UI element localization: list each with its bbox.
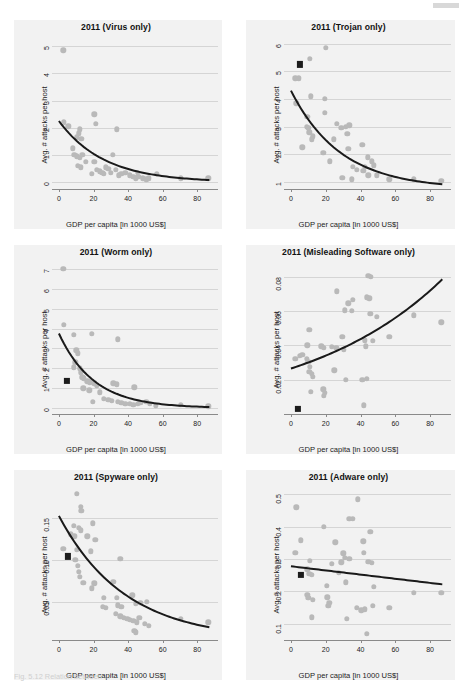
- x-axis-tick-label: 60: [385, 195, 405, 202]
- x-axis-tick: [59, 640, 60, 643]
- plot-area: 0.020.040.060.08020406080: [284, 263, 451, 414]
- x-axis-tick-label: 40: [351, 195, 371, 202]
- y-axis-label: Avg. # attacks per host: [272, 536, 281, 613]
- x-axis-tick: [163, 189, 164, 192]
- y-axis-label: Avg. # attacks per host: [40, 86, 49, 163]
- y-axis-tick-label: 0.15: [43, 518, 50, 532]
- plot-area: 01234567020406080: [52, 263, 218, 414]
- fit-curve: [284, 263, 451, 414]
- y-axis-tick-label: 4: [43, 73, 50, 77]
- x-axis-tick: [197, 189, 198, 192]
- y-axis-tick-label: 0.3: [275, 559, 282, 569]
- x-axis-tick: [59, 414, 60, 417]
- y-axis-tick-label: 3: [275, 127, 282, 131]
- chart-panel: 2011 (Adware only)Avg. # attacks per hos…: [232, 462, 465, 682]
- y-axis-tick-label: 5: [43, 309, 50, 313]
- y-axis-tick-label: 4: [43, 329, 50, 333]
- x-axis-tick: [361, 414, 362, 417]
- y-axis-tick-label: 0.04: [275, 345, 282, 359]
- x-axis-tick: [128, 414, 129, 417]
- x-axis-tick-label: 20: [84, 420, 104, 427]
- x-axis-tick-label: 40: [118, 646, 138, 653]
- chart-panel: 2011 (Spyware only)Avg. # attacks per ho…: [0, 462, 232, 682]
- x-axis-tick-label: 80: [420, 646, 440, 653]
- x-axis-tick-label: 60: [153, 195, 173, 202]
- page-corner-mark: [433, 3, 459, 8]
- x-axis-tick-label: 20: [316, 195, 336, 202]
- y-axis-tick-label: 0.1: [275, 624, 282, 634]
- y-axis-tick-label: 3: [43, 348, 50, 352]
- plot-area: 123456020406080: [284, 38, 451, 189]
- y-axis-tick-label: 2: [275, 154, 282, 158]
- x-axis-tick: [94, 189, 95, 192]
- fit-curve: [284, 38, 451, 189]
- y-axis-tick-label: 0.08: [275, 277, 282, 291]
- panel-title: 2011 (Spyware only): [0, 472, 232, 482]
- y-axis-tick-label: 0.4: [275, 527, 282, 537]
- x-axis-tick-label: 40: [351, 646, 371, 653]
- x-axis-tick-label: 80: [187, 195, 207, 202]
- y-axis-tick-label: 1: [43, 388, 50, 392]
- x-axis-tick-label: 40: [118, 420, 138, 427]
- x-axis-tick-label: 60: [385, 420, 405, 427]
- y-axis-tick-label: 2: [43, 368, 50, 372]
- y-axis-tick-label: 1: [275, 182, 282, 186]
- x-axis-tick-label: 80: [420, 420, 440, 427]
- fit-curve: [284, 488, 451, 640]
- figure-caption: Fig. 5.12 Relation between ...: [14, 672, 455, 681]
- y-axis-tick-label: 6: [43, 289, 50, 293]
- y-axis-tick-label: 0.02: [275, 380, 282, 394]
- y-axis-tick-label: 0: [43, 182, 50, 186]
- y-axis-tick-label: 2: [43, 128, 50, 132]
- x-axis-tick-label: 60: [153, 420, 173, 427]
- x-axis-tick: [430, 414, 431, 417]
- x-axis-label: GDP per capita [in 1000 US$]: [232, 220, 465, 229]
- y-axis-tick-label: 0.05: [43, 602, 50, 616]
- x-axis-tick-label: 40: [351, 420, 371, 427]
- plot-area: 0.10.20.30.40.5020406080: [284, 488, 451, 640]
- y-axis-tick-label: 3: [43, 101, 50, 105]
- x-axis-tick: [361, 640, 362, 643]
- x-axis-tick: [163, 414, 164, 417]
- y-axis-label: Avg. # attacks per host: [272, 86, 281, 163]
- chart-panel: 2011 (Misleading Software only)Avg. # at…: [232, 237, 465, 462]
- x-axis-tick: [395, 189, 396, 192]
- y-axis-tick-label: 0.5: [275, 494, 282, 504]
- fit-curve: [52, 488, 218, 640]
- x-axis-tick-label: 40: [118, 195, 138, 202]
- x-axis-label: GDP per capita [in 1000 US$]: [0, 445, 232, 454]
- figure-panel-grid: 2011 (Virus only)Avg. # attacks per host…: [0, 12, 465, 672]
- x-axis-line: [52, 414, 218, 415]
- x-axis-tick: [291, 414, 292, 417]
- x-axis-tick: [128, 640, 129, 643]
- chart-panel: 2011 (Virus only)Avg. # attacks per host…: [0, 12, 232, 237]
- x-axis-tick-label: 0: [49, 646, 69, 653]
- x-axis-tick-label: 0: [281, 195, 301, 202]
- x-axis-tick-label: 60: [385, 646, 405, 653]
- x-axis-tick-label: 80: [420, 195, 440, 202]
- x-axis-line: [284, 414, 451, 415]
- x-axis-tick-label: 0: [281, 420, 301, 427]
- fit-curve: [52, 263, 218, 414]
- x-axis-tick-label: 20: [316, 646, 336, 653]
- y-axis-tick-label: 7: [43, 269, 50, 273]
- x-axis-tick-label: 80: [187, 420, 207, 427]
- y-axis-tick-label: 6: [275, 44, 282, 48]
- x-axis-tick-label: 0: [281, 646, 301, 653]
- x-axis-tick-label: 80: [187, 646, 207, 653]
- x-axis-tick: [163, 640, 164, 643]
- x-axis-tick: [326, 414, 327, 417]
- x-axis-tick: [94, 640, 95, 643]
- x-axis-tick: [291, 640, 292, 643]
- x-axis-label: GDP per capita [in 1000 US$]: [232, 445, 465, 454]
- y-axis-tick-label: 5: [275, 71, 282, 75]
- x-axis-line: [284, 640, 451, 641]
- plot-area: 012345020406080: [52, 38, 218, 189]
- x-axis-tick: [361, 189, 362, 192]
- chart-panel: 2011 (Trojan only)Avg. # attacks per hos…: [232, 12, 465, 237]
- x-axis-tick: [430, 640, 431, 643]
- x-axis-tick: [197, 414, 198, 417]
- x-axis-line: [52, 189, 218, 190]
- x-axis-tick: [128, 189, 129, 192]
- plot-area: 0.050.100.15020406080: [52, 488, 218, 640]
